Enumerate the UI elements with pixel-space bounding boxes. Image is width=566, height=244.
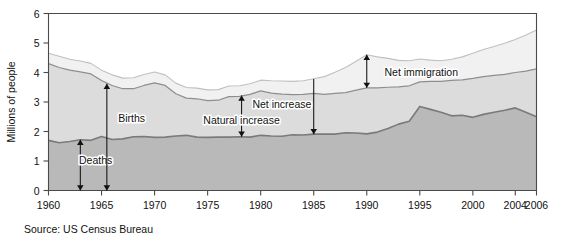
x-tick-label-1970: 1970 [143,199,167,211]
x-tick-label-1965: 1965 [90,199,114,211]
x-tick-label-1985: 1985 [302,199,326,211]
y-tick-label-5: 5 [34,37,40,49]
annotation-label-net-increase: Net increase [252,98,311,110]
source-note: Source: US Census Bureau [24,223,153,235]
x-tick-label-1995: 1995 [408,199,432,211]
y-axis-title: Millions of people [5,61,17,142]
x-tick-label-2006: 2006 [525,199,549,211]
annotation-label-natural-increase: Natural increase [203,114,280,126]
y-tick-label-3: 3 [34,96,40,108]
x-tick-label-2004: 2004 [504,199,528,211]
x-tick-label-2000: 2000 [461,199,485,211]
annotation-label-births: Births [118,112,145,124]
y-tick-label-1: 1 [34,155,40,167]
chart-figure: 1960196519701975198019851990199520002004… [0,0,566,244]
y-tick-label-4: 4 [34,67,40,79]
x-tick-label-1960: 1960 [37,199,61,211]
population-components-area-chart: 1960196519701975198019851990199520002004… [0,0,566,244]
x-tick-label-1990: 1990 [355,199,379,211]
y-tick-label-6: 6 [34,8,40,20]
annotation-label-net-immigration: Net immigration [384,66,458,78]
y-tick-label-0: 0 [34,185,40,197]
y-tick-label-2: 2 [34,126,40,138]
x-tick-label-1975: 1975 [196,199,220,211]
x-tick-label-1980: 1980 [249,199,273,211]
